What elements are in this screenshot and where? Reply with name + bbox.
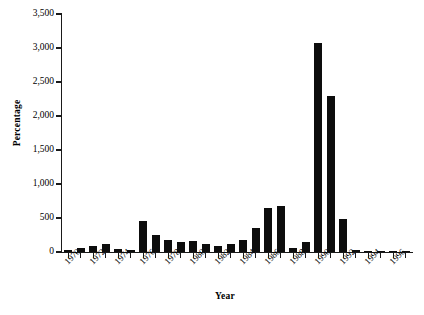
bar xyxy=(239,240,247,252)
x-tick-mark xyxy=(318,253,319,258)
bar xyxy=(177,242,185,252)
bar xyxy=(327,96,335,252)
bar xyxy=(339,219,347,252)
bar xyxy=(377,251,385,252)
x-tick-mark xyxy=(305,253,306,258)
x-tick-mark xyxy=(343,253,344,258)
bar xyxy=(64,250,72,252)
x-tick-mark xyxy=(255,253,256,258)
x-axis-line xyxy=(61,252,413,253)
x-tick-mark xyxy=(268,253,269,258)
x-tick-mark xyxy=(330,253,331,258)
x-tick-mark xyxy=(243,253,244,258)
x-tick-mark xyxy=(393,253,394,258)
x-tick-mark xyxy=(380,253,381,258)
x-tick-mark xyxy=(193,253,194,258)
y-tick-mark xyxy=(56,47,61,48)
bar xyxy=(152,235,160,252)
y-tick-mark xyxy=(56,115,61,116)
bar xyxy=(364,251,372,252)
x-tick-mark xyxy=(168,253,169,258)
y-tick-mark xyxy=(56,149,61,150)
x-tick-mark xyxy=(118,253,119,258)
bar xyxy=(164,240,172,252)
x-tick-mark xyxy=(405,253,406,258)
y-axis-ticks: 05001,0001,5002,0002,5003,0003,500 xyxy=(0,0,54,315)
bar xyxy=(252,228,260,252)
bar xyxy=(302,242,310,252)
bar xyxy=(227,244,235,252)
x-tick-mark xyxy=(143,253,144,258)
x-tick-mark xyxy=(205,253,206,258)
bar xyxy=(189,241,197,252)
bar xyxy=(264,208,272,252)
x-tick-mark xyxy=(218,253,219,258)
x-tick-mark xyxy=(93,253,94,258)
y-tick-mark xyxy=(56,13,61,14)
bar xyxy=(402,251,410,252)
x-tick-mark xyxy=(293,253,294,258)
x-tick-mark xyxy=(180,253,181,258)
bar xyxy=(114,249,122,252)
x-tick-mark xyxy=(280,253,281,258)
bar xyxy=(202,244,210,252)
y-tick-label: 3,000 xyxy=(4,43,54,53)
bar xyxy=(277,206,285,252)
x-tick-mark xyxy=(80,253,81,258)
x-tick-mark xyxy=(368,253,369,258)
bar xyxy=(314,43,322,252)
y-tick-label: 2,000 xyxy=(4,111,54,121)
y-tick-label: 1,000 xyxy=(4,179,54,189)
y-tick-mark xyxy=(56,81,61,82)
x-axis-title: Year xyxy=(195,291,255,301)
y-tick-label: 3,500 xyxy=(4,9,54,19)
y-tick-label: 2,500 xyxy=(4,77,54,87)
bar-chart: Percentage Year 05001,0001,5002,0002,500… xyxy=(0,0,424,315)
x-tick-mark xyxy=(230,253,231,258)
bar xyxy=(127,250,135,252)
y-tick-mark xyxy=(56,251,61,252)
y-tick-mark xyxy=(56,217,61,218)
x-tick-mark xyxy=(155,253,156,258)
y-tick-label: 0 xyxy=(4,247,54,257)
bar xyxy=(77,248,85,252)
y-tick-mark xyxy=(56,183,61,184)
bar xyxy=(214,246,222,252)
x-tick-mark xyxy=(355,253,356,258)
bar xyxy=(89,246,97,252)
y-tick-label: 1,500 xyxy=(4,145,54,155)
x-tick-mark xyxy=(105,253,106,258)
y-tick-label: 500 xyxy=(4,213,54,223)
bar xyxy=(102,244,110,252)
bar xyxy=(289,248,297,252)
bar xyxy=(352,250,360,252)
bar xyxy=(139,221,147,252)
x-tick-mark xyxy=(130,253,131,258)
x-tick-mark xyxy=(68,253,69,258)
bar xyxy=(389,251,397,252)
bars-container xyxy=(62,14,412,252)
